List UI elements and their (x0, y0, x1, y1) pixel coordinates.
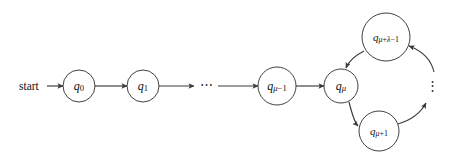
automaton-diagram: q0 q1 qμ−1 qμ qμ+λ−1 qμ+1 ⋯ ⋮ start (0, 0, 454, 161)
start-label: start (19, 80, 40, 92)
node-qmu-minus-1[interactable]: qμ−1 (258, 67, 296, 105)
horizontal-ellipsis: ⋯ (200, 77, 213, 92)
edge-qmu-to-qmu-plus-1 (349, 102, 358, 126)
edge-vertical-ellipsis-to-qmu-plus-lambda-minus-1 (409, 46, 434, 72)
node-qmu[interactable]: qμ (324, 69, 358, 103)
edge-qmu-plus-lambda-minus-1-to-qmu (346, 51, 364, 68)
node-q1[interactable]: q1 (127, 70, 159, 102)
node-q0[interactable]: q0 (63, 70, 95, 102)
node-qmu-plus-1[interactable]: qμ+1 (359, 111, 399, 151)
edge-qmu-plus-1-to-vertical-ellipsis (398, 103, 426, 124)
vertical-ellipsis: ⋮ (426, 78, 439, 93)
node-qmu-plus-lambda-minus-1[interactable]: qμ+λ−1 (362, 13, 410, 61)
